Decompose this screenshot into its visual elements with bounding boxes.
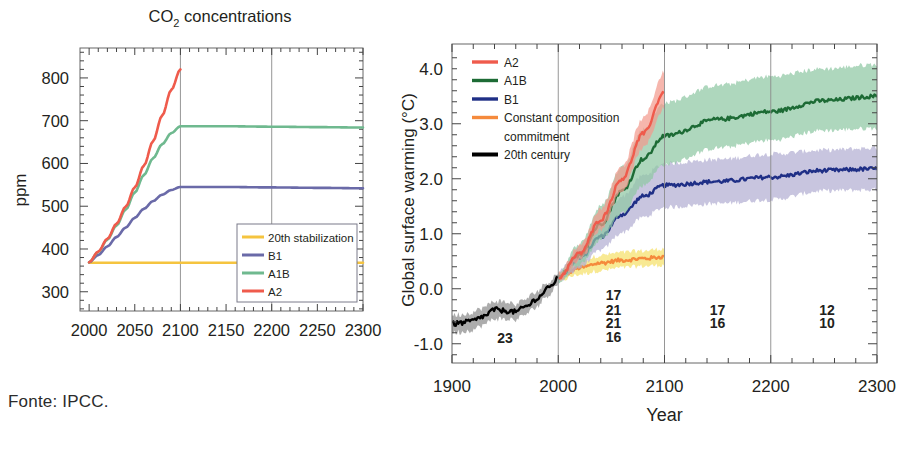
left-legend-label: A1B	[268, 268, 290, 280]
model-count-label: 16	[606, 329, 622, 345]
model-count-label: 23	[497, 330, 513, 346]
ipcc-figure: CO2 concentrationsppm2000205021002150220…	[0, 0, 905, 455]
right-ytick: 3.0	[419, 115, 443, 134]
left-xtick: 2000	[71, 321, 108, 339]
right-ytick: -1.0	[414, 335, 443, 354]
left-ytick: 500	[41, 197, 69, 215]
right-legend-label: Constant composition	[504, 111, 619, 125]
left-xtick: 2100	[162, 321, 199, 339]
band-20th-century	[452, 274, 558, 334]
right-legend-label: commitment	[504, 130, 570, 144]
left-ytick: 400	[41, 240, 69, 258]
right-xtick: 2000	[539, 377, 577, 396]
left-xtick: 2250	[299, 321, 336, 339]
left-ytick: 700	[41, 112, 69, 130]
right-xlabel: Year	[646, 405, 682, 425]
left-chart-title: CO2 concentrations	[149, 7, 292, 29]
right-ytick: 1.0	[419, 225, 443, 244]
left-xtick: 2200	[253, 321, 290, 339]
left-series-a2	[89, 69, 180, 262]
right-ytick: 4.0	[419, 60, 443, 79]
left-ylabel: ppm	[11, 173, 30, 206]
left-legend-label: 20th stabilization	[268, 232, 354, 244]
right-xtick: 2100	[646, 377, 684, 396]
right-ylabel: Global surface warming (°C)	[400, 93, 418, 307]
right-legend-label: 20th century	[504, 148, 570, 162]
right-ytick: 2.0	[419, 170, 443, 189]
left-xtick: 2300	[345, 321, 382, 339]
right-xtick: 2300	[858, 377, 896, 396]
right-xtick: 2200	[752, 377, 790, 396]
global-surface-warming-chart: Global surface warming (°C)1900200021002…	[400, 0, 905, 430]
left-xtick: 2050	[116, 321, 153, 339]
left-ytick: 800	[41, 69, 69, 87]
source-caption: Fonte: IPCC.	[8, 392, 109, 412]
model-count-label: 16	[710, 315, 726, 331]
model-count-label: 17	[606, 287, 622, 303]
left-ytick: 300	[41, 283, 69, 301]
right-legend-label: B1	[504, 93, 519, 107]
left-xtick: 2150	[208, 321, 245, 339]
left-legend-label: B1	[268, 250, 282, 262]
left-legend-label: A2	[268, 286, 282, 298]
co2-concentrations-chart: CO2 concentrationsppm2000205021002150220…	[0, 0, 400, 370]
model-count-label: 10	[819, 315, 835, 331]
right-legend-label: A2	[504, 56, 519, 70]
right-legend-label: A1B	[504, 74, 527, 88]
left-ytick: 600	[41, 154, 69, 172]
right-xtick: 1900	[433, 377, 471, 396]
right-ytick: 0.0	[419, 280, 443, 299]
